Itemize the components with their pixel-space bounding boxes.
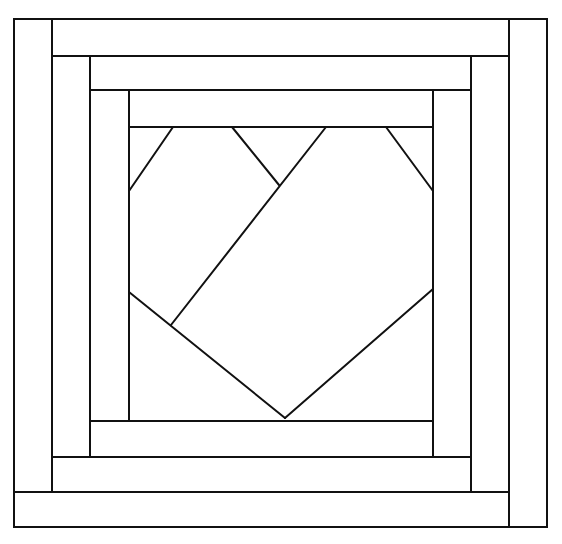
heart-bottom-right-edge-line xyxy=(285,289,433,418)
left-lobe-right-edge-line xyxy=(232,127,279,185)
inner-ring-bottom-strip xyxy=(90,421,433,457)
outer-ring-left-strip xyxy=(14,19,52,492)
outer-ring-right-strip xyxy=(509,19,547,527)
heart-center-lines xyxy=(129,127,433,418)
inner-ring xyxy=(90,90,471,457)
outer-ring-top-strip xyxy=(52,19,509,56)
outer-ring-bottom-strip xyxy=(14,492,509,527)
center-square xyxy=(129,127,433,421)
middle-ring-bottom-strip xyxy=(52,457,471,492)
inner-ring-top-strip xyxy=(129,90,433,127)
top-left-corner-cut-line xyxy=(129,127,173,191)
quilt-block-diagram xyxy=(0,0,562,544)
top-right-corner-cut-line xyxy=(386,127,433,191)
middle-ring-right-strip xyxy=(471,56,509,492)
heart-bottom-left-edge-line xyxy=(129,292,285,418)
inner-ring-left-strip xyxy=(90,90,129,421)
middle-ring-left-strip xyxy=(52,56,90,457)
log-cabin-rings xyxy=(14,19,547,527)
inner-ring-right-strip xyxy=(433,90,471,457)
heart-center-diagonal-line xyxy=(171,127,326,325)
middle-ring-top-strip xyxy=(90,56,471,90)
